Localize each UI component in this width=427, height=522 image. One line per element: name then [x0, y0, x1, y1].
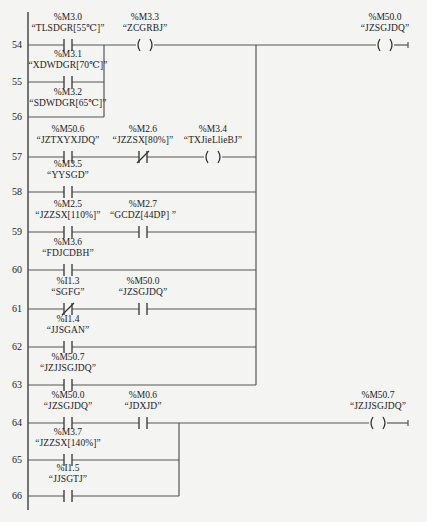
- row-number: 58: [0, 186, 22, 197]
- operand-label: %M50.7“JZJJSGJDQ”: [350, 390, 406, 412]
- operand-symbol: “XDWDGR[70℃]”: [29, 60, 108, 71]
- operand-address: %M2.5: [35, 199, 100, 210]
- operand-symbol: “YYSGD”: [47, 170, 89, 181]
- operand-symbol: “JZSGJDQ”: [119, 287, 167, 298]
- operand-label: %I1.5“JJSGTJ”: [49, 463, 87, 485]
- coil-icon[interactable]: [376, 39, 394, 51]
- row-number: 65: [0, 454, 22, 465]
- operand-symbol: “JZZSX[80%]”: [113, 135, 174, 146]
- operand-symbol: “JZZSX[110%]”: [35, 210, 100, 221]
- no-contact-icon[interactable]: [64, 490, 72, 502]
- operand-symbol: “TXJieLlieBJ”: [184, 135, 242, 146]
- operand-symbol: “ZCGRBJ”: [123, 23, 168, 34]
- operand-symbol: “JZSGJDQ”: [44, 401, 92, 412]
- operand-symbol: “JZSGJDQ”: [361, 23, 409, 34]
- row-number: 63: [0, 379, 22, 390]
- operand-symbol: “JDXJD”: [124, 401, 161, 412]
- operand-address: %I1.3: [51, 276, 84, 287]
- operand-address: %M3.4: [184, 124, 242, 135]
- row-number: 54: [0, 39, 22, 50]
- operand-label: %M3.0“TLSDGR[55℃]”: [31, 12, 104, 34]
- operand-address: %M3.2: [29, 87, 106, 98]
- operand-label: %M50.0“JZSGJDQ”: [119, 276, 167, 298]
- operand-address: %M0.6: [124, 390, 161, 401]
- operand-address: %M2.7: [110, 199, 176, 210]
- operand-symbol: “JZZSX[140%]”: [35, 438, 101, 449]
- row-number: 59: [0, 226, 22, 237]
- operand-label: %M3.4“TXJieLlieBJ”: [184, 124, 242, 146]
- operand-label: %M0.6“JDXJD”: [124, 390, 161, 412]
- coil-icon[interactable]: [136, 39, 154, 51]
- row-number: 64: [0, 417, 22, 428]
- operand-symbol: “SGFG”: [51, 287, 84, 298]
- operand-label: %M50.0“JZSGJDQ”: [44, 390, 92, 412]
- row-number: 61: [0, 303, 22, 314]
- operand-address: %M50.7: [40, 352, 96, 363]
- row-number: 60: [0, 264, 22, 275]
- operand-address: %M3.6: [42, 237, 94, 248]
- no-contact-icon[interactable]: [139, 226, 147, 238]
- no-contact-icon[interactable]: [64, 264, 72, 276]
- operand-label: %M2.5“JZZSX[110%]”: [35, 199, 100, 221]
- operand-label: %I1.4“JJSGAN”: [47, 314, 90, 336]
- operand-address: %M50.0: [361, 12, 409, 23]
- operand-symbol: “FDJCDBH”: [42, 248, 94, 259]
- row-number: 62: [0, 341, 22, 352]
- operand-address: %M3.3: [123, 12, 168, 23]
- operand-label: %M3.3“ZCGRBJ”: [123, 12, 168, 34]
- operand-symbol: “JZJJSGJDQ”: [350, 401, 406, 412]
- operand-label: %M3.2“SDWDGR[65℃]”: [29, 87, 106, 109]
- operand-address: %M50.7: [350, 390, 406, 401]
- operand-address: %M3.1: [29, 49, 108, 60]
- row-number: 55: [0, 76, 22, 87]
- operand-address: %M3.0: [31, 12, 104, 23]
- operand-label: %M2.7“GCDZ[44DP] ”: [110, 199, 176, 221]
- operand-address: %M50.0: [44, 390, 92, 401]
- operand-symbol: “SDWDGR[65℃]”: [29, 98, 106, 109]
- operand-address: %I1.4: [47, 314, 90, 325]
- operand-symbol: “TLSDGR[55℃]”: [31, 23, 104, 34]
- no-contact-icon[interactable]: [139, 417, 147, 429]
- coil-icon[interactable]: [204, 151, 222, 163]
- operand-address: %M3.7: [35, 427, 101, 438]
- operand-label: %I1.3“SGFG”: [51, 276, 84, 298]
- operand-label: %M2.6“JZZSX[80%]”: [113, 124, 174, 146]
- operand-address: %M3.5: [47, 159, 89, 170]
- operand-symbol: “JZJJSGJDQ”: [40, 363, 96, 374]
- operand-address: %I1.5: [49, 463, 87, 474]
- operand-symbol: “JZTXYXJDQ”: [37, 135, 100, 146]
- operand-symbol: “JJSGAN”: [47, 325, 90, 336]
- no-contact-icon[interactable]: [64, 186, 72, 198]
- coil-icon[interactable]: [369, 417, 387, 429]
- operand-label: %M50.0“JZSGJDQ”: [361, 12, 409, 34]
- operand-address: %M50.0: [119, 276, 167, 287]
- operand-symbol: “GCDZ[44DP] ”: [110, 210, 176, 221]
- operand-symbol: “JJSGTJ”: [49, 474, 87, 485]
- operand-label: %M3.5“YYSGD”: [47, 159, 89, 181]
- row-number: 66: [0, 490, 22, 501]
- operand-label: %M3.1“XDWDGR[70℃]”: [29, 49, 108, 71]
- nc-contact-icon[interactable]: [137, 151, 149, 163]
- operand-label: %M50.6“JZTXYXJDQ”: [37, 124, 100, 146]
- operand-address: %M50.6: [37, 124, 100, 135]
- operand-address: %M2.6: [113, 124, 174, 135]
- row-number: 57: [0, 151, 22, 162]
- operand-label: %M3.6“FDJCDBH”: [42, 237, 94, 259]
- operand-label: %M50.7“JZJJSGJDQ”: [40, 352, 96, 374]
- no-contact-icon[interactable]: [139, 303, 147, 315]
- operand-label: %M3.7“JZZSX[140%]”: [35, 427, 101, 449]
- row-number: 56: [0, 111, 22, 122]
